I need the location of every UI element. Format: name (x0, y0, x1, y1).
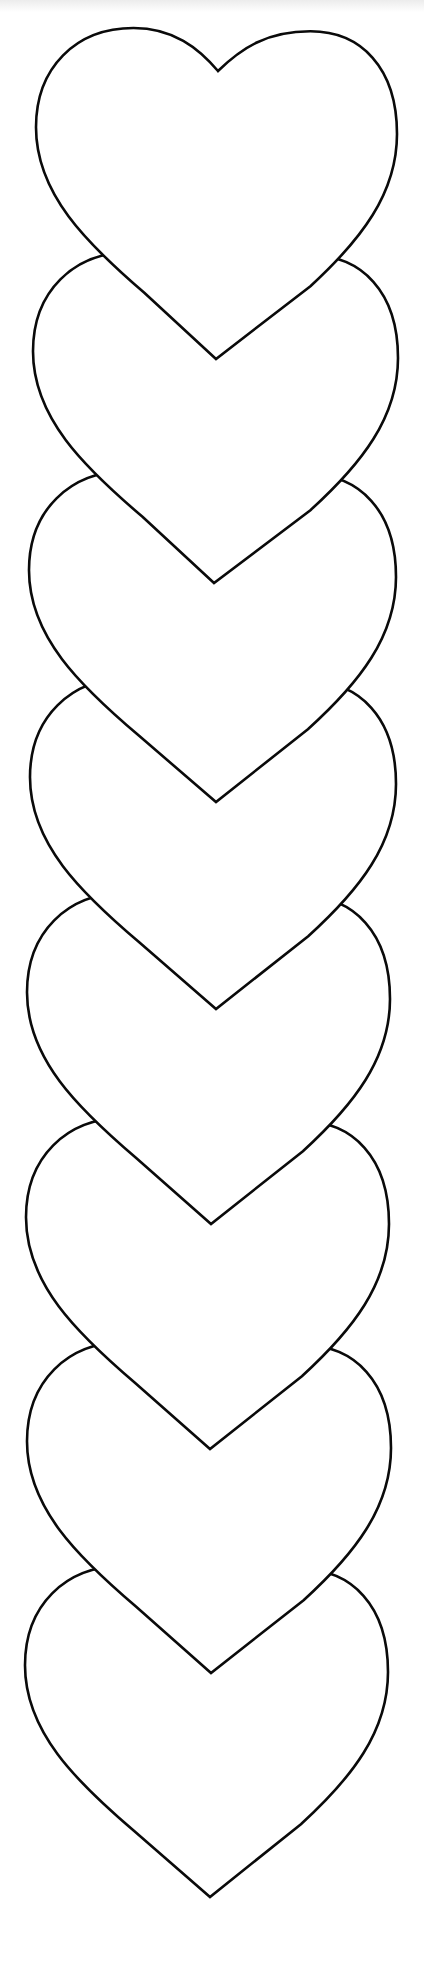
hearts-canvas (0, 0, 424, 1986)
